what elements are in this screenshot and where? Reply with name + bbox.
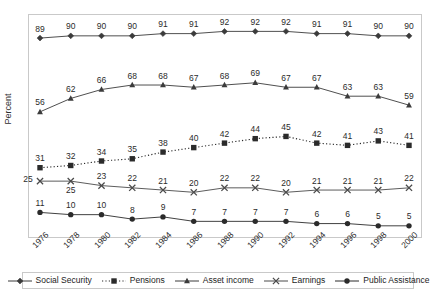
data-value-label: 68 bbox=[128, 71, 138, 81]
square-marker bbox=[99, 158, 104, 163]
series-earnings: 25252322212022222021212122 bbox=[23, 171, 414, 195]
square-marker bbox=[130, 156, 135, 161]
data-value-label: 90 bbox=[374, 21, 384, 31]
legend-item-label: Public Assistance bbox=[363, 276, 429, 285]
data-value-label: 59 bbox=[404, 91, 414, 101]
circle-marker bbox=[99, 212, 104, 217]
data-value-label: 10 bbox=[97, 200, 107, 210]
data-value-label: 22 bbox=[220, 173, 230, 183]
circle-marker bbox=[406, 223, 411, 228]
cross-legend-icon bbox=[263, 276, 289, 286]
data-value-label: 63 bbox=[374, 82, 384, 92]
data-value-label: 40 bbox=[189, 133, 199, 143]
legend-item-label: Pensions bbox=[130, 276, 165, 285]
data-value-label: 38 bbox=[158, 138, 168, 148]
data-value-label: 11 bbox=[36, 198, 45, 208]
square-marker bbox=[283, 134, 288, 139]
data-value-label: 25 bbox=[23, 174, 33, 184]
diamond-legend-icon bbox=[7, 276, 33, 286]
legend-item-public-assistance[interactable]: Public Assistance bbox=[334, 276, 429, 286]
data-value-label: 21 bbox=[312, 176, 322, 186]
diamond-marker bbox=[314, 31, 320, 37]
data-value-label: 6 bbox=[345, 209, 350, 219]
data-value-label: 21 bbox=[158, 176, 168, 186]
series-social-security: 89909090919192929291919090 bbox=[35, 17, 414, 41]
diamond-marker bbox=[68, 33, 74, 39]
data-value-label: 7 bbox=[222, 207, 227, 217]
diamond-marker bbox=[129, 33, 135, 39]
data-value-label: 91 bbox=[312, 19, 322, 29]
diamond-marker bbox=[191, 31, 197, 37]
data-value-label: 6 bbox=[314, 209, 319, 219]
data-value-label: 10 bbox=[66, 200, 76, 210]
data-value-label: 43 bbox=[374, 126, 384, 136]
circle-marker bbox=[222, 219, 227, 224]
diamond-marker bbox=[345, 31, 351, 37]
diamond-marker bbox=[17, 278, 23, 284]
data-value-label: 67 bbox=[189, 73, 199, 83]
data-value-label: 5 bbox=[407, 211, 412, 221]
square-marker bbox=[376, 138, 381, 143]
data-value-label: 68 bbox=[158, 71, 168, 81]
diamond-marker bbox=[406, 33, 412, 39]
data-value-label: 22 bbox=[128, 173, 138, 183]
square-marker bbox=[222, 140, 227, 145]
data-value-label: 90 bbox=[66, 21, 76, 31]
circle-marker bbox=[314, 221, 319, 226]
legend-item-pensions[interactable]: Pensions bbox=[101, 276, 165, 286]
data-value-label: 8 bbox=[130, 205, 135, 215]
circle-marker bbox=[376, 223, 381, 228]
square-marker bbox=[68, 163, 73, 168]
triangle-marker bbox=[252, 80, 258, 86]
series-asset-income: 56626668686768696767636359 bbox=[35, 68, 414, 114]
circle-marker bbox=[37, 210, 42, 215]
legend-item-label: Earnings bbox=[292, 276, 326, 285]
data-value-label: 21 bbox=[343, 176, 353, 186]
circle-legend-icon bbox=[334, 276, 360, 286]
data-value-label: 9 bbox=[161, 202, 166, 212]
plot-border bbox=[29, 15, 422, 238]
data-value-label: 90 bbox=[128, 21, 138, 31]
plot-area: 8990909091919292929191909031323435384042… bbox=[0, 0, 433, 294]
data-value-label: 91 bbox=[158, 19, 168, 29]
triangle-marker bbox=[375, 93, 381, 99]
diamond-marker bbox=[99, 33, 105, 39]
data-value-label: 22 bbox=[251, 173, 261, 183]
legend-item-earnings[interactable]: Earnings bbox=[263, 276, 326, 286]
data-value-label: 7 bbox=[191, 207, 196, 217]
circle-marker bbox=[160, 214, 165, 219]
data-value-label: 42 bbox=[312, 129, 322, 139]
diamond-marker bbox=[252, 28, 258, 34]
data-value-label: 34 bbox=[97, 147, 107, 157]
legend-item-label: Asset income bbox=[203, 276, 254, 285]
square-marker bbox=[160, 149, 165, 154]
square-marker bbox=[406, 143, 411, 148]
data-value-label: 91 bbox=[343, 19, 353, 29]
data-value-label: 90 bbox=[97, 21, 107, 31]
square-marker bbox=[253, 136, 258, 141]
data-value-label: 91 bbox=[189, 19, 199, 29]
data-value-label: 90 bbox=[404, 21, 414, 31]
diamond-marker bbox=[222, 28, 228, 34]
legend-item-label: Social Security bbox=[36, 276, 92, 285]
square-marker bbox=[345, 143, 350, 148]
chart-container: Percent 89909090919192929291919090313234… bbox=[0, 0, 433, 294]
series-public-assistance: 1110108977776655 bbox=[36, 198, 412, 229]
circle-marker bbox=[191, 219, 196, 224]
data-value-label: 41 bbox=[343, 131, 353, 141]
chart-legend: Social SecurityPensionsAsset incomeEarni… bbox=[22, 272, 414, 289]
circle-marker bbox=[253, 219, 258, 224]
diamond-marker bbox=[283, 28, 289, 34]
square-marker bbox=[111, 278, 116, 283]
legend-item-social-security[interactable]: Social Security bbox=[7, 276, 92, 286]
square-marker bbox=[37, 165, 42, 170]
legend-item-asset-income[interactable]: Asset income bbox=[174, 276, 254, 286]
data-value-label: 31 bbox=[35, 153, 45, 163]
series-pensions: 31323435384042444542414341 bbox=[35, 122, 414, 170]
diamond-marker bbox=[160, 31, 166, 37]
circle-marker bbox=[283, 219, 288, 224]
data-value-label: 45 bbox=[281, 122, 291, 132]
data-value-label: 32 bbox=[66, 151, 76, 161]
data-value-label: 21 bbox=[374, 176, 384, 186]
data-value-label: 68 bbox=[220, 71, 230, 81]
